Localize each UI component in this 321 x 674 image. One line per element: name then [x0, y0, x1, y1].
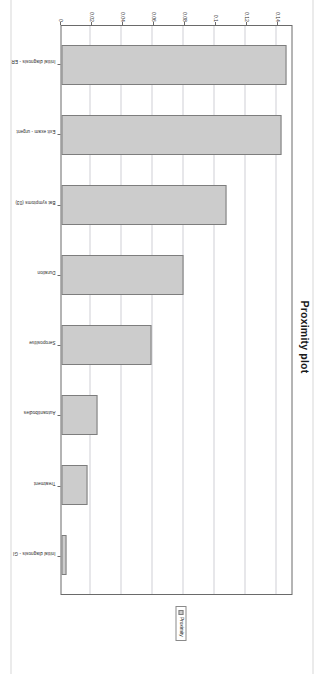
value-axis-tick-label: 0.14	[274, 12, 280, 22]
scanned-page: Proximity plot 00.020.040.060.080.10.120…	[0, 0, 321, 674]
bar[interactable]	[61, 465, 87, 506]
chart-title: Proximity plot	[298, 0, 310, 674]
legend-item-label: Proximity	[178, 617, 183, 637]
bar-slot	[61, 30, 291, 100]
category-label-slot: Duration	[14, 240, 60, 310]
value-axis-tick-label: 0.1	[212, 15, 218, 22]
category-axis-tick-mark	[57, 275, 60, 276]
category-label-slot: Initial diagnosis - GI	[14, 521, 60, 591]
category-label-slot: Autoantibodies	[14, 380, 60, 450]
category-axis-tick-mark	[57, 486, 60, 487]
bar[interactable]	[61, 185, 226, 226]
category-axis-label: Seropositive	[29, 340, 55, 345]
bar[interactable]	[61, 45, 286, 86]
category-label-slot: Seropositive	[14, 310, 60, 380]
bar-slot	[61, 170, 291, 240]
value-axis-tick-label: 0.06	[150, 12, 156, 22]
bar-series	[61, 26, 291, 594]
chart-legend[interactable]: Proximity	[175, 606, 186, 641]
bar-slot	[61, 240, 291, 310]
category-axis-tick-mark	[57, 205, 60, 206]
value-axis: 00.020.040.060.080.10.120.14	[60, 0, 292, 25]
legend-swatch-icon	[178, 610, 183, 615]
category-axis-tick-mark	[57, 415, 60, 416]
category-axis-label: Exit exam - urgent	[16, 129, 55, 134]
bar-slot	[61, 310, 291, 380]
bar[interactable]	[61, 325, 151, 366]
bar[interactable]	[61, 115, 281, 156]
value-axis-tick-label: 0.04	[119, 12, 125, 22]
category-axis-label: Treatment	[33, 481, 55, 486]
category-label-slot: Initial diagnosis - ER	[14, 29, 60, 99]
category-axis-tick-mark	[57, 556, 60, 557]
bar[interactable]	[61, 535, 66, 576]
bar-slot	[61, 380, 291, 450]
value-axis-tick-label: 0.12	[243, 12, 249, 22]
bar-slot	[61, 450, 291, 520]
bar[interactable]	[61, 395, 97, 436]
category-axis-label: Bat symptoms (03)	[15, 200, 55, 205]
category-axis-label: Autoantibodies	[23, 410, 55, 415]
bar[interactable]	[61, 255, 183, 296]
plot-area	[60, 25, 292, 595]
category-label-slot: Treatment	[14, 451, 60, 521]
chart-figure: Proximity plot 00.020.040.060.080.10.120…	[12, 0, 312, 674]
category-axis-label: Initial diagnosis - ER	[11, 59, 55, 64]
category-axis: Initial diagnosis - ERExit exam - urgent…	[14, 25, 60, 595]
value-axis-tick-label: 0	[57, 19, 63, 22]
bar-slot	[61, 520, 291, 590]
category-label-slot: Exit exam - urgent	[14, 99, 60, 169]
category-axis-tick-mark	[57, 345, 60, 346]
value-axis-tick-label: 0.08	[181, 12, 187, 22]
category-label-slot: Bat symptoms (03)	[14, 170, 60, 240]
category-axis-tick-mark	[57, 134, 60, 135]
category-axis-label: Duration	[37, 270, 55, 275]
value-axis-tick-label: 0.02	[88, 12, 94, 22]
category-axis-tick-mark	[57, 64, 60, 65]
bar-slot	[61, 100, 291, 170]
page-edge-bottom	[10, 0, 11, 674]
category-axis-label: Initial diagnosis - GI	[12, 551, 55, 556]
